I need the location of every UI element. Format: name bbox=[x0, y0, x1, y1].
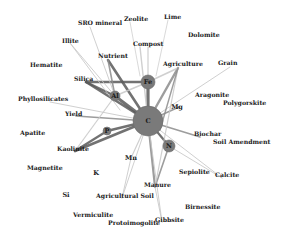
keyword-label: Protoimogolite bbox=[108, 219, 160, 227]
keyword-label: Yield bbox=[64, 110, 83, 117]
node-label: P bbox=[105, 127, 110, 135]
keyword-label: Agricultural Soil bbox=[95, 192, 154, 200]
keyword-label: Vermiculite bbox=[72, 211, 113, 218]
keyword-label: Phyllosilicates bbox=[18, 95, 69, 103]
keyword-label: Manure bbox=[144, 181, 171, 188]
keyword-label: Grain bbox=[218, 59, 238, 66]
node-label: K bbox=[93, 169, 99, 177]
edge bbox=[70, 43, 115, 96]
node-label: Mg bbox=[171, 103, 183, 111]
node-label: Al bbox=[110, 92, 119, 100]
node-label: Fe bbox=[144, 78, 152, 86]
keyword-label: Sepiolite bbox=[179, 168, 210, 176]
node-label: C bbox=[145, 117, 150, 125]
keyword-label: Apatite bbox=[19, 129, 45, 137]
edge bbox=[156, 20, 168, 76]
keyword-label: Soil Amendment bbox=[213, 138, 271, 145]
node-label: Si bbox=[62, 191, 70, 199]
edge bbox=[130, 22, 140, 76]
keyword-label: Agriculture bbox=[162, 60, 203, 68]
keyword-label: Illite bbox=[62, 37, 79, 44]
network-canvas: CFeAlNPMgMnKSi SRO mineralZeoliteLimeDol… bbox=[0, 0, 283, 239]
keyword-label: Aragonite bbox=[194, 91, 229, 99]
keyword-label: Lime bbox=[164, 13, 181, 20]
keyword-label: Biochar bbox=[194, 130, 222, 137]
keyword-label: Hematite bbox=[30, 61, 62, 68]
keyword-label: Dolomite bbox=[188, 31, 220, 38]
keyword-label: Nutrient bbox=[98, 52, 128, 59]
keyword-label: Compost bbox=[133, 40, 164, 48]
keyword-label: Magnetite bbox=[27, 164, 63, 172]
keyword-label: Calcite bbox=[215, 171, 239, 178]
keyword-label: SRO mineral bbox=[78, 19, 123, 26]
keyword-label: Zeolite bbox=[124, 15, 148, 22]
keyword-label: Silica bbox=[74, 75, 93, 82]
node-label: N bbox=[166, 142, 172, 150]
keyword-label: Birnessite bbox=[185, 203, 220, 210]
node-label: Mn bbox=[125, 154, 137, 162]
network-diagram: CFeAlNPMgMnKSi SRO mineralZeoliteLimeDol… bbox=[0, 0, 283, 239]
keyword-label: Kaolinite bbox=[57, 145, 89, 152]
keyword-label: Polygorskite bbox=[223, 99, 266, 107]
